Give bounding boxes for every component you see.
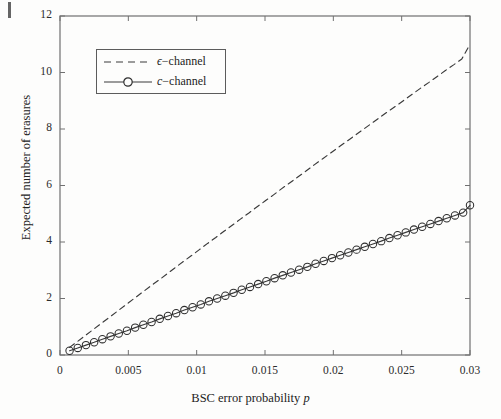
- y-tick-label: 0: [12, 347, 52, 359]
- legend-suffix-epsilon: −channel: [162, 54, 206, 68]
- x-tick-label: 0.025: [372, 364, 432, 376]
- x-tick-label: 0.01: [167, 364, 227, 376]
- legend-swatch-solid-circle: [103, 73, 153, 91]
- plot-svg: [0, 0, 501, 419]
- figure-canvas: 024681012 00.0050.010.0150.020.0250.03 B…: [0, 0, 501, 419]
- legend-item-epsilon-channel[interactable]: ϵ−channel: [97, 51, 225, 72]
- y-tick-label: 12: [12, 8, 52, 20]
- legend-label-c-channel: c−channel: [157, 74, 206, 89]
- legend: ϵ−channel c−channel: [96, 49, 226, 94]
- x-axis-title-text: BSC error probability: [191, 391, 303, 405]
- x-tick-label: 0: [30, 364, 90, 376]
- y-axis-title: Expected number of erasures: [19, 38, 34, 298]
- x-tick-label: 0.02: [303, 364, 363, 376]
- x-tick-label: 0.015: [235, 364, 295, 376]
- x-axis-title-symbol: p: [303, 391, 309, 405]
- legend-swatch-dashed: [103, 53, 153, 71]
- x-tick-label: 0.005: [98, 364, 158, 376]
- legend-label-epsilon-channel: ϵ−channel: [157, 54, 206, 69]
- x-tick-label: 0.03: [440, 364, 500, 376]
- legend-item-c-channel[interactable]: c−channel: [97, 71, 225, 92]
- x-axis-title: BSC error probability p: [0, 391, 501, 406]
- legend-suffix-c: −channel: [162, 74, 206, 88]
